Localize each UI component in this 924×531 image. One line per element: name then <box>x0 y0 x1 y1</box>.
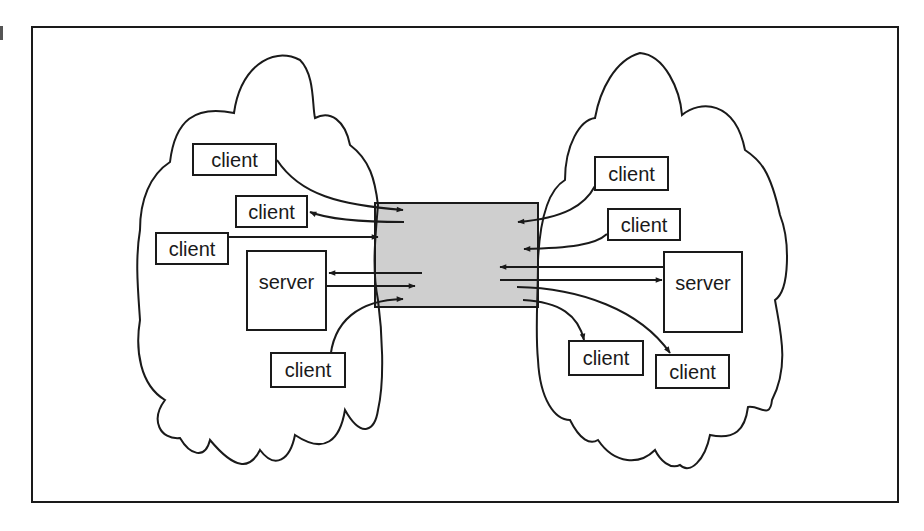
diagram-canvas: client client client server client clien… <box>0 0 924 531</box>
shared-channel <box>375 203 538 307</box>
margin-mark <box>0 26 3 40</box>
diagram-graphics <box>0 0 924 531</box>
right-client-3: client <box>568 340 644 376</box>
left-client-3: client <box>155 232 229 265</box>
left-client-4: client <box>270 352 346 388</box>
right-network-cloud <box>537 53 787 468</box>
left-server: server <box>246 250 327 331</box>
right-client-2: client <box>607 208 681 241</box>
left-client-1: client <box>192 143 277 176</box>
right-server: server <box>663 251 743 333</box>
right-client-1: client <box>594 156 669 191</box>
left-client-2: client <box>235 195 308 228</box>
right-client-4: client <box>655 354 730 389</box>
